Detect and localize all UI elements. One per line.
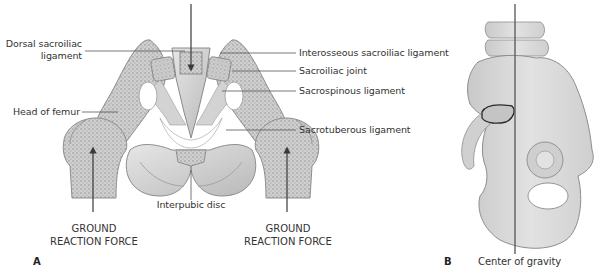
label-line: GROUND	[44, 222, 144, 235]
panel-label-b: B	[444, 256, 452, 267]
label-ground-reaction-force-left: GROUND REACTION FORCE	[44, 222, 144, 248]
label-sacrotuberous-ligament: Sacrotuberous ligament	[299, 124, 410, 136]
label-line: Dorsal sacroiliac	[0, 38, 82, 50]
diagram-stage: Dorsal sacroiliac ligament Head of femur…	[0, 0, 596, 272]
label-line: REACTION FORCE	[44, 235, 144, 248]
label-interosseous-sacroiliac-ligament: Interosseous sacroiliac ligament	[299, 47, 449, 59]
label-line: REACTION FORCE	[238, 235, 338, 248]
label-line: GROUND	[238, 222, 338, 235]
label-interpubic-disc: Interpubic disc	[150, 199, 232, 211]
label-sacroiliac-joint: Sacroiliac joint	[299, 65, 367, 77]
sacroiliac-joint-outline	[482, 105, 514, 123]
figure-a-pelvis	[63, 4, 319, 212]
label-sacrospinous-ligament: Sacrospinous ligament	[299, 85, 405, 97]
panel-label-a: A	[33, 256, 41, 267]
label-head-of-femur: Head of femur	[0, 106, 80, 118]
label-center-of-gravity: Center of gravity	[478, 256, 561, 268]
label-ground-reaction-force-right: GROUND REACTION FORCE	[238, 222, 338, 248]
figure-b-lateral-pelvis	[462, 4, 593, 254]
label-dorsal-sacroiliac-ligament: Dorsal sacroiliac ligament	[0, 38, 82, 62]
label-line: ligament	[0, 50, 82, 62]
